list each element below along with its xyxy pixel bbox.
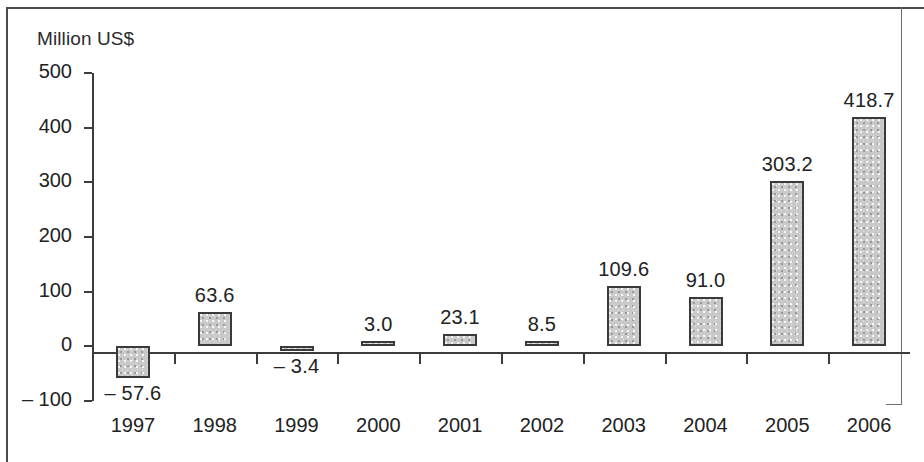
bar-value-label: 303.2 [732, 153, 842, 176]
y-axis-tick [84, 181, 92, 183]
y-axis-tick [84, 72, 92, 74]
y-axis-tick-label: – 100 [8, 388, 72, 411]
bar-value-label: 91.0 [651, 269, 761, 292]
y-axis-tick-label: 400 [8, 115, 72, 138]
bar [607, 286, 641, 346]
bar [280, 346, 314, 351]
y-axis-tick [84, 345, 92, 347]
bar-value-label: 8.5 [487, 313, 597, 336]
x-axis-category-label: 2006 [819, 414, 919, 437]
figure-frame-top-rule [6, 7, 924, 9]
bar-value-label: 418.7 [814, 89, 924, 112]
y-axis-tick [84, 291, 92, 293]
x-axis-tick [828, 353, 830, 364]
x-axis-tick [583, 353, 585, 364]
bar-value-label: – 57.6 [78, 382, 188, 405]
bar [525, 341, 559, 346]
bar-value-label: – 3.4 [242, 355, 352, 378]
bar [689, 297, 723, 347]
bar [361, 341, 395, 346]
figure-frame-right-foot [886, 404, 902, 405]
figure-frame-right-rule [901, 7, 902, 405]
x-axis-tick [419, 353, 421, 364]
bar-chart-figure: Million US$ 5004003002001000– 100 – 57.6… [0, 0, 924, 462]
bar [770, 181, 804, 347]
y-axis-tick-label: 100 [8, 279, 72, 302]
bar [198, 312, 232, 347]
x-axis-tick [501, 353, 503, 364]
y-axis-tick [84, 236, 92, 238]
y-axis-tick-label: 0 [8, 333, 72, 356]
bar [852, 117, 886, 346]
y-axis-tick [84, 127, 92, 129]
bar [443, 334, 477, 347]
bar-value-label: 63.6 [160, 284, 270, 307]
y-axis-title: Million US$ [37, 28, 134, 50]
x-axis-tick [174, 353, 176, 364]
x-axis-tick [746, 353, 748, 364]
x-axis-tick [665, 353, 667, 364]
bar [116, 346, 150, 377]
y-axis-tick-label: 500 [8, 60, 72, 83]
y-axis-tick-label: 300 [8, 169, 72, 192]
y-axis-tick-label: 200 [8, 224, 72, 247]
